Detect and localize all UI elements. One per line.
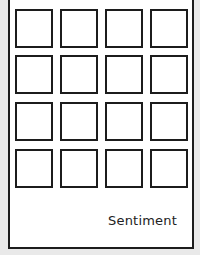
grid-tile-r3c3[interactable] [105,102,143,141]
grid-tile-r1c2[interactable] [60,9,98,48]
grid-tile-r1c4[interactable] [150,9,188,48]
grid-tile-r3c4[interactable] [150,102,188,141]
grid-tile-r2c2[interactable] [60,55,98,94]
grid-tile-r4c2[interactable] [60,149,98,188]
grid-tile-r2c3[interactable] [105,55,143,94]
grid-tile-r4c3[interactable] [105,149,143,188]
grid-tile-r3c2[interactable] [60,102,98,141]
grid-tile-r1c1[interactable] [15,9,53,48]
grid-tile-r2c4[interactable] [150,55,188,94]
grid-tile-r1c3[interactable] [105,9,143,48]
grid-tile-r2c1[interactable] [15,55,53,94]
card-label: Sentiment [108,213,177,228]
grid-tile-r4c1[interactable] [15,149,53,188]
grid-tile-r4c4[interactable] [150,149,188,188]
grid-tile-r3c1[interactable] [15,102,53,141]
